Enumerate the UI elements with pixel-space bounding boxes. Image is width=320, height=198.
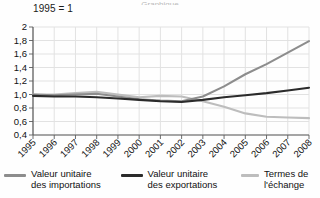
y-tick-label: 1,8 [14, 35, 27, 46]
x-tick-label: 2006 [249, 137, 272, 160]
x-tick-label: 1996 [36, 137, 59, 160]
legend-label-terms-of-trade: Termes de l'échange [264, 168, 308, 190]
y-tick-label: 0,8 [14, 102, 27, 113]
y-tick-label: 0,6 [14, 116, 27, 127]
line-chart-svg: 0,40,60,81,01,21,41,61,82 19951996199719… [0, 0, 320, 168]
legend-item-imports: Valeur unitaire des importations [0, 168, 121, 190]
gridlines [33, 27, 309, 135]
y-tick-label: 1,6 [14, 48, 27, 59]
y-axis-labels: 0,40,60,81,01,21,41,61,82 [14, 21, 27, 140]
y-tick-label: 2 [22, 21, 27, 32]
legend-label-exports: Valeur unitaire des exportations [148, 168, 218, 190]
x-tick-label: 1999 [100, 137, 123, 160]
legend-item-exports: Valeur unitaire des exportations [121, 168, 241, 190]
x-axis-labels: 1995199619971998199920002001200220032004… [15, 137, 314, 160]
x-tick-label: 2003 [185, 137, 208, 160]
series-lines [33, 41, 309, 118]
y-tick-label: 1,0 [14, 89, 27, 100]
legend-swatch-imports [4, 174, 26, 177]
x-tick-label: 2002 [164, 137, 187, 160]
chart-page: Graphique 1995 = 1 0,40,60,81,01,21,41,6… [0, 0, 320, 198]
x-tick-label: 2007 [270, 137, 293, 160]
x-tick-label: 2004 [206, 137, 229, 160]
plot-area: 0,40,60,81,01,21,41,61,82 19951996199719… [0, 0, 320, 168]
x-tick-label: 2008 [291, 137, 314, 160]
legend-swatch-terms-of-trade [241, 174, 259, 177]
y-tick-label: 0,4 [14, 129, 27, 140]
x-tick-label: 1998 [79, 137, 102, 160]
legend-swatch-exports [121, 174, 143, 177]
y-tick-label: 1,4 [14, 62, 27, 73]
x-tick-label: 2005 [227, 137, 250, 160]
x-tick-label: 2000 [121, 137, 144, 160]
legend-label-imports: Valeur unitaire des importations [31, 168, 101, 190]
x-tick-label: 2001 [143, 137, 166, 160]
x-tick-label: 1997 [58, 137, 81, 160]
y-tick-label: 1,2 [14, 75, 27, 86]
legend-item-terms-of-trade: Termes de l'échange [241, 168, 320, 190]
chart-legend: Valeur unitaire des importations Valeur … [0, 168, 320, 198]
